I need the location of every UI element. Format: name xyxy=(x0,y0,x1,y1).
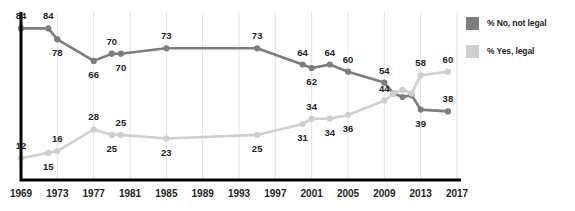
point-label: 66 xyxy=(88,68,99,79)
point-label: 54 xyxy=(379,64,390,75)
x-axis-tick-1973: 1973 xyxy=(46,188,68,199)
point-label: 25 xyxy=(107,142,118,153)
point-label: 44 xyxy=(379,82,390,93)
chart-legend: % No, not legal % Yes, legal xyxy=(466,16,572,72)
point-label: 34 xyxy=(306,100,317,111)
point-label: 60 xyxy=(443,53,454,64)
x-axis-tick-1993: 1993 xyxy=(228,188,250,199)
data-point xyxy=(300,121,306,127)
point-label: 25 xyxy=(252,142,263,153)
x-axis-tick-1997: 1997 xyxy=(264,188,286,199)
point-label: 84 xyxy=(43,10,54,21)
x-axis-tick-1969: 1969 xyxy=(10,188,32,199)
data-point xyxy=(54,148,60,154)
point-label: 39 xyxy=(415,117,426,128)
data-point xyxy=(254,132,260,138)
data-point xyxy=(418,72,424,78)
point-label: 31 xyxy=(297,132,308,143)
data-point xyxy=(399,87,405,93)
point-label: 36 xyxy=(343,123,354,134)
x-axis-tick-2001: 2001 xyxy=(301,188,323,199)
data-point xyxy=(163,45,169,51)
data-point xyxy=(91,58,97,64)
data-point xyxy=(409,90,415,96)
legend-item-no-not-legal: % No, not legal xyxy=(466,16,572,30)
data-point xyxy=(54,36,60,42)
point-label: 73 xyxy=(252,30,263,41)
data-point xyxy=(300,61,306,67)
point-label: 58 xyxy=(415,57,426,68)
data-point xyxy=(254,45,260,51)
point-label: 70 xyxy=(107,35,118,46)
x-axis-tick-2017: 2017 xyxy=(446,188,468,199)
legend-swatch-yes-legal xyxy=(466,45,479,58)
data-point xyxy=(109,51,115,57)
legend-label-yes-legal: % Yes, legal xyxy=(487,46,534,56)
data-point xyxy=(399,94,405,100)
data-point xyxy=(327,61,333,67)
x-axis-tick-1989: 1989 xyxy=(192,188,214,199)
x-axis-tick-2005: 2005 xyxy=(337,188,359,199)
data-point xyxy=(118,132,124,138)
legend-swatch-no-not-legal xyxy=(466,17,479,30)
data-point xyxy=(381,98,387,104)
point-label: 23 xyxy=(161,146,172,157)
data-point xyxy=(418,107,424,113)
data-point xyxy=(445,69,451,75)
point-label: 62 xyxy=(306,76,317,87)
line-chart: 8484786670707373646264605439381215162825… xyxy=(0,0,575,211)
data-point xyxy=(109,132,115,138)
point-label: 78 xyxy=(52,47,63,58)
point-label: 28 xyxy=(88,111,99,122)
data-point xyxy=(445,108,451,114)
data-point xyxy=(91,126,97,132)
legend-label-no-not-legal: % No, not legal xyxy=(487,18,546,28)
data-point xyxy=(345,69,351,75)
x-axis-tick-1977: 1977 xyxy=(83,188,105,199)
point-label: 73 xyxy=(161,30,172,41)
point-label: 25 xyxy=(116,116,127,127)
data-point xyxy=(118,51,124,57)
x-axis-tick-2009: 2009 xyxy=(373,188,395,199)
point-label: 84 xyxy=(16,10,27,21)
point-label: 64 xyxy=(325,46,336,57)
point-label: 34 xyxy=(325,126,336,137)
point-label: 12 xyxy=(16,140,27,151)
data-point xyxy=(163,135,169,141)
data-point xyxy=(309,65,315,71)
legend-item-yes-legal: % Yes, legal xyxy=(466,44,572,58)
point-label: 15 xyxy=(43,160,54,171)
x-axis-tick-1981: 1981 xyxy=(119,188,141,199)
data-point xyxy=(345,112,351,118)
x-axis-tick-2013: 2013 xyxy=(410,188,432,199)
point-label: 70 xyxy=(116,61,127,72)
point-label: 16 xyxy=(52,133,63,144)
point-label: 38 xyxy=(443,93,454,104)
data-point xyxy=(45,25,51,31)
x-axis-tick-1985: 1985 xyxy=(155,188,177,199)
data-point xyxy=(45,150,51,156)
data-point xyxy=(390,90,396,96)
data-point xyxy=(327,116,333,122)
point-label: 60 xyxy=(343,53,354,64)
point-label: 64 xyxy=(297,46,308,57)
data-point xyxy=(309,116,315,122)
